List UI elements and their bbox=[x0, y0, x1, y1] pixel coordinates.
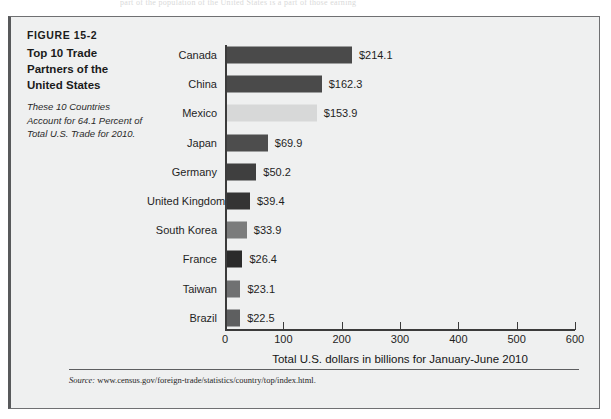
bar-value-label: $162.3 bbox=[329, 78, 363, 90]
chart-bar bbox=[227, 251, 242, 268]
chart-bar bbox=[227, 134, 268, 151]
category-label: Japan bbox=[147, 137, 217, 149]
chart-bar bbox=[227, 105, 317, 122]
chart-bar bbox=[227, 222, 247, 239]
category-axis-labels: CanadaChinaMexicoJapanGermanyUnited King… bbox=[147, 37, 217, 309]
source-divider bbox=[69, 369, 579, 370]
category-label: Germany bbox=[147, 166, 217, 178]
chart-bar bbox=[227, 163, 256, 180]
x-axis-tick bbox=[575, 322, 576, 330]
figure-page: part of the population of the United Sta… bbox=[0, 0, 611, 419]
x-axis-tick bbox=[517, 322, 518, 330]
category-label: France bbox=[147, 253, 217, 265]
category-label: South Korea bbox=[147, 224, 217, 236]
x-axis-tick-label: 600 bbox=[566, 333, 584, 345]
bar-value-label: $33.9 bbox=[254, 224, 282, 236]
x-axis-tick bbox=[225, 322, 226, 330]
figure-subtitle: These 10 Countries Account for 64.1 Perc… bbox=[27, 100, 145, 141]
figure-title: Top 10 Trade Partners of the United Stat… bbox=[27, 45, 145, 93]
category-label: Brazil bbox=[147, 312, 217, 324]
figure-box: FIGURE 15-2 Top 10 Trade Partners of the… bbox=[8, 16, 600, 409]
category-label: Mexico bbox=[147, 107, 217, 119]
bar-value-label: $23.1 bbox=[247, 283, 275, 295]
x-axis-tick-label: 100 bbox=[274, 333, 292, 345]
bar-value-label: $50.2 bbox=[263, 166, 291, 178]
x-axis-tick-label: 500 bbox=[507, 333, 525, 345]
category-label: Canada bbox=[147, 49, 217, 61]
bar-value-label: $26.4 bbox=[249, 253, 277, 265]
x-axis-tick bbox=[400, 322, 401, 330]
x-axis-tick bbox=[283, 322, 284, 330]
chart-bar bbox=[227, 47, 352, 64]
figure-caption-block: FIGURE 15-2 Top 10 Trade Partners of the… bbox=[27, 29, 145, 141]
category-label: China bbox=[147, 78, 217, 90]
chart-bar bbox=[227, 193, 250, 210]
x-axis-tick bbox=[342, 322, 343, 330]
bar-value-label: $214.1 bbox=[359, 49, 393, 61]
bar-value-label: $69.9 bbox=[275, 137, 303, 149]
category-label: Taiwan bbox=[147, 283, 217, 295]
x-axis-tick-label: 400 bbox=[449, 333, 467, 345]
source-url: www.census.gov/foreign-trade/statistics/… bbox=[97, 375, 316, 385]
bar-value-label: $153.9 bbox=[324, 107, 358, 119]
source-line: Source: www.census.gov/foreign-trade/sta… bbox=[69, 375, 316, 385]
chart-axes: Total U.S. dollars in billions for Janua… bbox=[225, 37, 587, 337]
chart-bar bbox=[227, 76, 322, 93]
chart-bar bbox=[227, 309, 240, 326]
source-label: Source: bbox=[69, 375, 95, 385]
category-label: United Kingdom bbox=[147, 195, 217, 207]
chart-bar bbox=[227, 280, 240, 297]
bar-value-label: $39.4 bbox=[257, 195, 285, 207]
x-axis-tick-label: 300 bbox=[391, 333, 409, 345]
page-bleed-text: part of the population of the United Sta… bbox=[120, 0, 520, 8]
x-axis-tick bbox=[458, 322, 459, 330]
chart-plot-area: CanadaChinaMexicoJapanGermanyUnited King… bbox=[147, 37, 587, 337]
bar-value-label: $22.5 bbox=[247, 312, 275, 324]
figure-number: FIGURE 15-2 bbox=[27, 29, 145, 41]
x-axis-title: Total U.S. dollars in billions for Janua… bbox=[225, 353, 575, 365]
x-axis-tick-label: 200 bbox=[332, 333, 350, 345]
x-axis-tick-label: 0 bbox=[222, 333, 228, 345]
